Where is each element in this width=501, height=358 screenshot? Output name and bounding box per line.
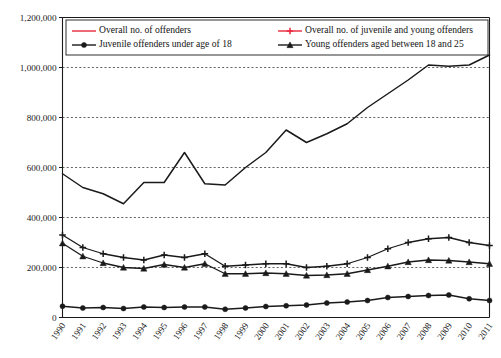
x-axis-tick-label: 2009 [435,321,454,342]
y-axis-tick-label: 1,000,000 [20,63,57,73]
data-point-marker [59,240,65,246]
legend-item-4[interactable]: Young offenders aged between 18 and 25 [278,38,464,49]
x-axis-tick-label: 1999 [232,321,251,342]
data-point-marker [243,306,248,311]
data-point-marker [80,306,85,311]
data-point-marker [59,232,66,239]
x-axis-tick-label: 2011 [476,321,495,342]
data-point-marker [467,296,472,301]
y-axis-tick-label: 200,000 [27,263,57,273]
x-axis-tick-label: 1992 [90,321,109,342]
x-axis-tick-label: 1998 [212,321,231,342]
data-point-marker [120,254,127,261]
data-point-marker [426,293,431,298]
data-point-marker [80,244,87,251]
data-point-marker [385,245,392,252]
data-point-marker [121,306,126,311]
data-point-marker [284,303,289,308]
x-axis-tick-label: 2002 [293,321,312,342]
data-point-marker [283,260,290,267]
x-axis-tick-label: 1990 [49,321,68,342]
data-point-marker [263,260,270,267]
data-point-marker [406,294,411,299]
data-point-marker [425,235,432,242]
series-line [63,243,490,275]
legend-item-2[interactable]: Overall no. of juvenile and young offend… [278,24,473,35]
x-axis-tick-label: 1993 [110,321,129,342]
series-line [63,295,490,309]
data-point-marker [223,307,228,312]
series-line [63,55,490,204]
x-axis-tick-label: 2001 [273,321,292,342]
data-point-marker [181,254,188,261]
legend-item-label: Overall no. of offenders [99,24,191,35]
data-point-marker [222,263,229,270]
x-axis-tick-label: 2003 [313,321,332,342]
x-axis-tick-label: 2008 [415,321,434,342]
x-axis-tick-label: 1997 [191,321,210,342]
x-axis-tick-label: 1995 [151,321,170,342]
data-point-marker [344,260,351,267]
series-4 [59,240,492,278]
data-point-marker [80,253,86,259]
data-point-marker [466,239,473,246]
x-axis-tick-label: 1996 [171,321,190,342]
x-axis-tick-label: 2010 [456,321,475,342]
data-point-marker [141,257,148,264]
data-point-marker [60,304,65,309]
data-point-marker [324,263,331,270]
data-point-marker [304,303,309,308]
chart-legend: Overall no. of offendersOverall no. of j… [66,20,488,55]
data-series [59,55,493,312]
data-point-marker [345,300,350,305]
data-point-marker [486,242,493,249]
x-axis-tick-label: 2000 [252,321,271,342]
data-point-marker [202,250,209,257]
data-point-marker [287,28,294,35]
data-point-marker [303,264,310,271]
data-point-marker [405,239,412,246]
y-axis-labels: 0200,000400,000600,000800,0001,000,0001,… [20,13,57,323]
x-axis-tick-label: 2004 [334,321,353,342]
x-axis-tick-label: 2006 [374,321,393,342]
data-point-marker [446,234,453,241]
data-point-marker [100,250,107,257]
series-3 [60,293,492,312]
data-point-marker [202,305,207,310]
line-chart: 0200,000400,000600,000800,0001,000,0001,… [0,0,501,358]
x-axis-tick-label: 2007 [395,321,414,342]
y-axis-tick-label: 0 [52,313,57,323]
data-point-marker [487,298,492,303]
legend-item-label: Young offenders aged between 18 and 25 [305,38,464,49]
data-point-marker [161,252,168,259]
data-point-marker [182,305,187,310]
y-axis-tick-label: 600,000 [27,163,57,173]
x-axis-tick-label: 1991 [69,321,88,342]
data-point-marker [365,298,370,303]
data-point-marker [101,305,106,310]
x-axis-tick-label: 1994 [130,321,149,342]
legend-item-label: Overall no. of juvenile and young offend… [305,24,473,35]
y-axis-tick-label: 800,000 [27,113,57,123]
y-axis-tick-label: 1,200,000 [20,13,57,23]
data-point-marker [385,295,390,300]
x-axis-tick-label: 2005 [354,321,373,342]
data-point-marker [162,305,167,310]
data-point-marker [263,304,268,309]
series-2 [59,232,493,271]
data-point-marker [82,43,87,48]
data-point-marker [446,293,451,298]
legend-item-label: Juvenile offenders under age of 18 [99,38,232,49]
legend-item-3[interactable]: Juvenile offenders under age of 18 [72,38,232,49]
x-axis-labels: 1990199119921993199419951996199719981999… [49,321,495,342]
data-point-marker [141,305,146,310]
series-1 [63,55,490,204]
data-point-marker [324,301,329,306]
data-point-marker [364,254,371,261]
chart-container: 0200,000400,000600,000800,0001,000,0001,… [0,0,501,358]
legend-item-1[interactable]: Overall no. of offenders [72,24,191,35]
y-axis-tick-label: 400,000 [27,213,57,223]
